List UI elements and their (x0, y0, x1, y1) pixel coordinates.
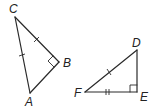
side-fd (85, 50, 137, 92)
geometry-diagram: C B A D E F (0, 0, 155, 110)
triangle-abc (15, 17, 59, 93)
vertex-label-d: D (132, 36, 141, 50)
right-angle-mark-b (48, 56, 54, 67)
vertex-label-a: A (24, 95, 33, 109)
triangle-def (85, 50, 137, 95)
vertex-label-e: E (140, 90, 149, 104)
vertex-label-b: B (63, 56, 71, 70)
vertex-label-c: C (9, 2, 18, 16)
side-ba (30, 62, 59, 93)
vertex-label-f: F (74, 86, 82, 100)
right-angle-mark-e (130, 85, 137, 92)
